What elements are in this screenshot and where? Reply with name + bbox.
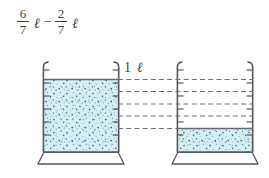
- left-beaker: [38, 62, 124, 164]
- capacity-label: 1ℓ: [124, 60, 143, 75]
- right-beaker-base: [172, 152, 258, 164]
- right-beaker-liquid: [178, 128, 252, 152]
- figure-page: 6 7 ℓ − 2 7 ℓ: [0, 0, 269, 178]
- right-beaker: [172, 62, 258, 164]
- left-beaker-base: [38, 152, 124, 164]
- left-beaker-liquid: [44, 79, 118, 152]
- beaker-diagram: 1ℓ: [0, 0, 269, 178]
- connector-dashed-lines: [118, 80, 253, 129]
